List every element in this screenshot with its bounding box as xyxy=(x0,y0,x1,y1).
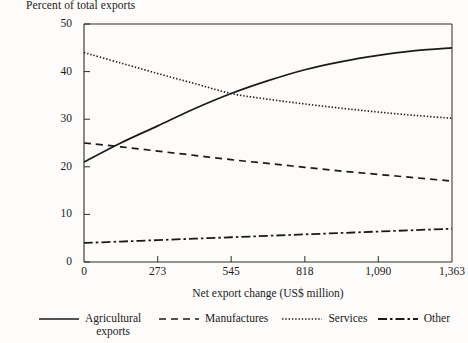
y-axis-tick-label: 30 xyxy=(38,113,72,125)
legend-item[interactable]: Other xyxy=(377,312,450,325)
x-axis-tick-label: 273 xyxy=(128,266,188,278)
x-axis-title: Net export change (US$ million) xyxy=(84,287,452,299)
x-axis-tick-label: 818 xyxy=(275,266,335,278)
legend-item-label: Services xyxy=(328,312,367,325)
legend-item[interactable]: Services xyxy=(281,312,367,325)
chart-legend: Agricultural exportsManufacturesServices… xyxy=(0,312,468,343)
legend-item-label: Other xyxy=(424,312,450,325)
y-axis-tick-label: 40 xyxy=(38,66,72,78)
x-axis-tick-label: 1,363 xyxy=(422,266,468,278)
y-axis-tick-label: 10 xyxy=(38,208,72,220)
y-axis-tick-label: 20 xyxy=(38,161,72,173)
x-axis-tick-label: 1,090 xyxy=(348,266,408,278)
x-axis-tick-label: 0 xyxy=(54,266,114,278)
legend-item-label: Manufactures xyxy=(205,312,268,325)
dash-dot-line-icon xyxy=(377,313,419,325)
axis-frame xyxy=(84,24,452,262)
series-line xyxy=(84,143,452,181)
series-line xyxy=(84,48,452,162)
legend-item[interactable]: Manufactures xyxy=(158,312,268,325)
dotted-line-icon xyxy=(281,313,323,325)
dashed-line-icon xyxy=(158,313,200,325)
series-line xyxy=(84,229,452,243)
x-axis-tick-label: 545 xyxy=(201,266,261,278)
solid-line-icon xyxy=(38,313,80,325)
legend-item[interactable]: Agricultural exports xyxy=(38,312,141,337)
data-series-group xyxy=(84,48,452,243)
series-line xyxy=(84,53,452,119)
chart-figure: Percent of total exports 01020304050 027… xyxy=(0,0,468,343)
legend-item-label: Agricultural exports xyxy=(85,312,141,337)
x-axis-ticks xyxy=(158,256,379,262)
y-axis-tick-label: 50 xyxy=(38,18,72,30)
